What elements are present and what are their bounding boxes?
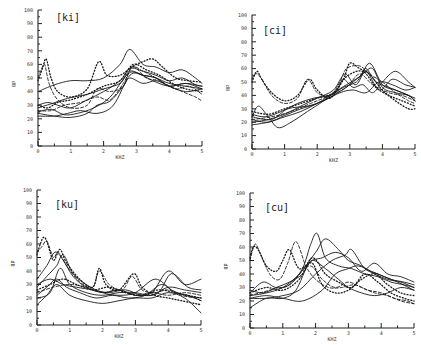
x-tick-label: 4 — [381, 151, 384, 157]
y-tick-label: 40 — [26, 268, 32, 274]
x-tick-label: 1 — [68, 327, 71, 333]
y-tick-label: 100 — [236, 190, 245, 196]
x-tick-label: 2 — [314, 330, 317, 336]
y-axis-label: dB — [11, 81, 17, 87]
spectrum-curve-s6 — [252, 82, 415, 120]
y-tick-label: 90 — [241, 25, 247, 31]
spectrum-curve-s9 — [252, 71, 415, 114]
y-tick-label: 60 — [241, 65, 247, 71]
y-tick-label: 10 — [26, 308, 32, 314]
y-tick-label: 60 — [26, 241, 32, 247]
y-tick-label: 40 — [239, 271, 245, 277]
spectrum-curve-s1 — [37, 252, 201, 296]
y-tick-label: 10 — [241, 132, 247, 138]
x-tick-label: 5 — [199, 327, 202, 333]
y-tick-label: 40 — [27, 88, 33, 94]
y-tick-label: 10 — [27, 129, 33, 135]
x-tick-label: 0 — [35, 327, 38, 333]
x-tick-label: 5 — [413, 151, 416, 157]
y-tick-label: 80 — [239, 217, 245, 223]
y-tick-label: 90 — [239, 203, 245, 209]
y-tick-label: 70 — [26, 227, 32, 233]
y-tick-label: 100 — [24, 7, 33, 13]
y-axis-label: dB — [223, 263, 229, 269]
x-axis-label: KHZ — [114, 333, 123, 339]
y-tick-label: 50 — [26, 254, 32, 260]
x-tick-label: 3 — [134, 327, 137, 333]
y-tick-label: 60 — [27, 61, 33, 67]
x-tick-label: 2 — [101, 327, 104, 333]
x-axis-label: KHZ — [327, 336, 336, 342]
x-tick-label: 4 — [168, 148, 171, 154]
panel-label: [ci] — [263, 25, 287, 36]
x-tick-label: 4 — [167, 327, 170, 333]
x-tick-label: 0 — [250, 151, 253, 157]
panel-label: [ki] — [56, 12, 80, 23]
y-tick-label: 30 — [27, 102, 33, 108]
y-tick-label: 70 — [239, 230, 245, 236]
spectrum-curve-s7 — [252, 63, 415, 110]
panel-label: [ku] — [55, 199, 79, 210]
x-axis-label: KHZ — [329, 157, 338, 163]
y-tick-label: 30 — [26, 281, 32, 287]
x-tick-label: 5 — [200, 148, 203, 154]
y-tick-label: 90 — [27, 20, 33, 26]
y-axis-label: dB — [225, 85, 231, 91]
x-tick-label: 0 — [248, 330, 251, 336]
spectrum-curve-s4 — [37, 285, 201, 313]
x-tick-label: 3 — [135, 148, 138, 154]
y-tick-label: 80 — [26, 214, 32, 220]
y-tick-label: 80 — [27, 34, 33, 40]
y-tick-label: 20 — [27, 116, 33, 122]
figure-canvas: 0102030405060708090100012345KHZdB[ki]010… — [0, 0, 421, 345]
panel-label: [cu] — [265, 202, 289, 213]
x-tick-label: 2 — [102, 148, 105, 154]
y-tick-label: 70 — [241, 52, 247, 58]
panel-4: 0102030405060708090100012345KHZdB[cu] — [223, 190, 416, 342]
x-tick-label: 1 — [69, 148, 72, 154]
spectrum-curve-s5 — [38, 73, 202, 116]
y-tick-label: 90 — [26, 200, 32, 206]
y-axis-label: dB — [10, 260, 16, 266]
spectrum-curve-s1 — [250, 233, 414, 293]
y-tick-label: 0 — [30, 143, 33, 149]
y-tick-label: 50 — [241, 79, 247, 85]
x-tick-label: 3 — [348, 151, 351, 157]
y-tick-label: 20 — [239, 298, 245, 304]
x-tick-label: 1 — [281, 330, 284, 336]
spectrum-curve-s7 — [37, 237, 201, 305]
y-tick-label: 0 — [244, 146, 247, 152]
panel-2: 0102030405060708090100012345KHZdB[ci] — [225, 12, 417, 163]
spectrum-curve-s8 — [37, 241, 201, 301]
y-tick-label: 50 — [27, 75, 33, 81]
y-tick-label: 10 — [239, 311, 245, 317]
y-tick-label: 100 — [238, 12, 247, 18]
y-tick-label: 100 — [23, 187, 32, 193]
y-tick-label: 40 — [241, 92, 247, 98]
x-tick-label: 4 — [380, 330, 383, 336]
panel-1: 0102030405060708090100012345KHZdB[ki] — [11, 7, 204, 160]
x-tick-label: 0 — [36, 148, 39, 154]
y-tick-label: 70 — [27, 48, 33, 54]
y-tick-label: 30 — [239, 284, 245, 290]
y-tick-label: 20 — [26, 295, 32, 301]
y-tick-label: 30 — [241, 106, 247, 112]
x-tick-label: 1 — [283, 151, 286, 157]
y-tick-label: 50 — [239, 257, 245, 263]
y-tick-label: 20 — [241, 119, 247, 125]
x-tick-label: 2 — [316, 151, 319, 157]
x-tick-label: 5 — [412, 330, 415, 336]
y-tick-label: 0 — [29, 322, 32, 328]
y-tick-label: 0 — [242, 325, 245, 331]
spectrum-curve-s8 — [250, 242, 414, 304]
panel-3: 0102030405060708090100012345KHZdB[ku] — [10, 187, 203, 339]
y-tick-label: 60 — [239, 244, 245, 250]
x-axis-label: KHZ — [115, 154, 124, 160]
y-tick-label: 80 — [241, 39, 247, 45]
x-tick-label: 3 — [347, 330, 350, 336]
